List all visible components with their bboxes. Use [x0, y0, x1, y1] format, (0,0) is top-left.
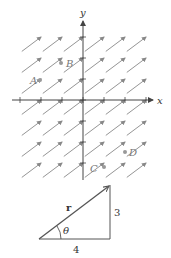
field-arrow	[85, 121, 104, 135]
point-c-marker	[102, 165, 106, 169]
field-arrow	[85, 58, 104, 72]
field-arrow	[22, 121, 41, 135]
field-arrow	[64, 121, 83, 135]
field-arrow	[85, 100, 104, 114]
field-arrow	[64, 100, 83, 114]
field-arrow	[43, 58, 62, 72]
field-arrow	[43, 121, 62, 135]
field-arrow	[43, 100, 62, 114]
point-b-label: B	[65, 58, 73, 69]
field-arrow	[106, 37, 125, 51]
point-d-label: D	[128, 147, 137, 158]
vector-r-hypotenuse	[39, 186, 109, 239]
field-arrow	[22, 100, 41, 114]
y-axis-label: y	[79, 7, 86, 18]
field-arrow	[43, 79, 62, 93]
field-arrow	[127, 37, 146, 51]
field-arrow	[22, 142, 41, 156]
x-axis-label: x	[157, 95, 163, 106]
point-d-marker	[123, 150, 127, 154]
field-arrow	[127, 163, 146, 177]
field-arrow	[85, 142, 104, 156]
field-arrow	[22, 163, 41, 177]
horizontal-side-label: 4	[73, 244, 79, 255]
field-arrow	[22, 37, 41, 51]
field-arrow	[64, 142, 83, 156]
field-arrow	[106, 79, 125, 93]
field-arrow	[64, 37, 83, 51]
point-c-label: C	[90, 163, 98, 174]
field-arrow	[85, 37, 104, 51]
field-arrow	[127, 79, 146, 93]
field-arrow	[127, 100, 146, 114]
field-arrow	[43, 37, 62, 51]
angle-theta-arc	[57, 226, 61, 239]
right-triangle: r θ 3 4	[39, 185, 120, 255]
field-arrow	[106, 58, 125, 72]
field-arrow	[127, 121, 146, 135]
field-arrow	[106, 121, 125, 135]
field-arrow	[106, 142, 125, 156]
field-arrow	[85, 79, 104, 93]
vertical-side-label: 3	[114, 207, 120, 218]
field-arrow	[43, 163, 62, 177]
field-arrow	[64, 163, 83, 177]
angle-theta-label: θ	[63, 225, 69, 236]
field-arrow	[127, 58, 146, 72]
field-arrow	[64, 79, 83, 93]
point-a-marker	[38, 78, 42, 82]
field-arrow	[106, 163, 125, 177]
field-arrow	[106, 100, 125, 114]
point-b-marker	[59, 61, 63, 65]
field-arrow	[43, 142, 62, 156]
figure: x y A B C D r θ 3 4	[0, 0, 171, 258]
vector-r-label: r	[66, 202, 72, 213]
point-a-label: A	[29, 75, 37, 86]
field-arrow	[22, 58, 41, 72]
